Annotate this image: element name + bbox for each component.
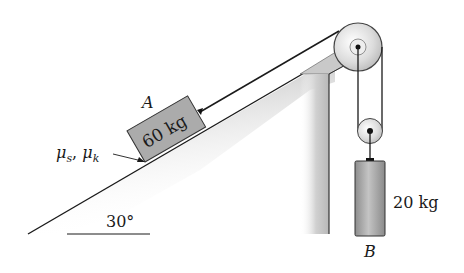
support-post-shading	[300, 74, 329, 234]
movable-pulley	[358, 119, 383, 163]
block-b-label: B	[363, 242, 376, 261]
pulley-incline-diagram: 20 kg B 60 kg A μs, μk 30°	[0, 0, 464, 273]
friction-label: μs, μk	[56, 143, 100, 165]
friction-pointer-line	[113, 154, 142, 161]
block-b: 20 kg B	[355, 161, 438, 261]
friction-annotation: μs, μk	[56, 143, 145, 165]
block-b-body	[355, 161, 385, 236]
angle-label: 30°	[106, 212, 134, 231]
block-a-label: A	[140, 93, 154, 112]
block-b-mass-label: 20 kg	[393, 193, 438, 212]
